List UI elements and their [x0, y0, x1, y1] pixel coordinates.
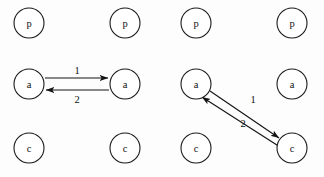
diagram-svg: ppaaccppaacc 1212 [0, 0, 324, 177]
diagram-canvas: ppaaccppaacc 1212 [0, 0, 324, 177]
node-label: c [290, 143, 295, 154]
edge-labels-layer: 1212 [74, 65, 255, 129]
node-l-p2: p [110, 8, 140, 38]
node-label: p [289, 18, 294, 29]
node-label: a [194, 79, 199, 90]
node-r-a1: a [181, 69, 211, 99]
node-l-a2: a [110, 69, 140, 99]
node-label: p [193, 18, 198, 29]
node-label: p [122, 18, 127, 29]
node-label: c [27, 143, 32, 154]
edges-layer [45, 78, 280, 147]
node-label: p [26, 18, 31, 29]
node-label: a [123, 79, 128, 90]
edge-label: 2 [74, 94, 79, 105]
node-l-p1: p [14, 8, 44, 38]
node-r-a2: a [277, 69, 307, 99]
node-r-p1: p [181, 8, 211, 38]
nodes-layer: ppaaccppaacc [14, 8, 307, 163]
edge-label: 1 [74, 65, 79, 76]
node-label: c [194, 143, 199, 154]
node-r-c1: c [181, 133, 211, 163]
node-label: c [123, 143, 128, 154]
edge-arrow [210, 91, 279, 138]
edge-label: 1 [250, 94, 255, 105]
node-l-c1: c [14, 133, 44, 163]
node-label: a [290, 79, 295, 90]
edge-label: 2 [240, 118, 245, 129]
node-label: a [27, 79, 32, 90]
node-l-a1: a [14, 69, 44, 99]
node-l-c2: c [110, 133, 140, 163]
node-r-p2: p [277, 8, 307, 38]
node-r-c2: c [277, 133, 307, 163]
